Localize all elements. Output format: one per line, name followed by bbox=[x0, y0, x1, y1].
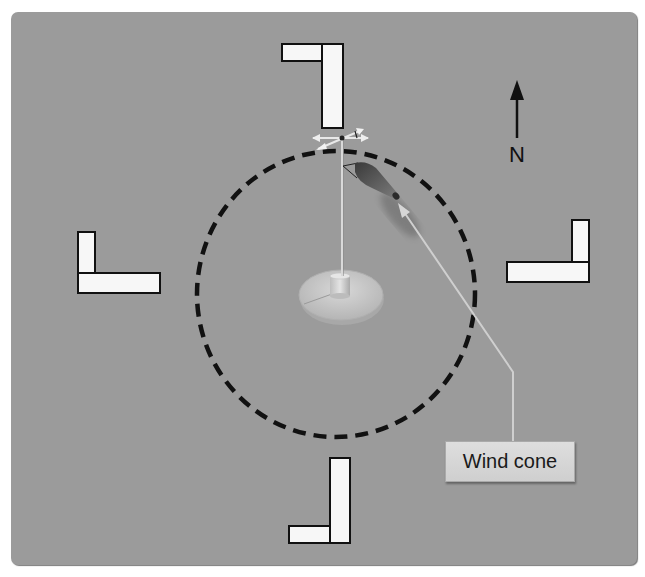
wind-cone-label-text: Wind cone bbox=[463, 450, 558, 473]
wind-cone-callout-label: Wind cone bbox=[445, 441, 575, 482]
north-arrow-icon bbox=[510, 80, 524, 138]
wind-tee-icon bbox=[312, 128, 369, 150]
traffic-indicator-right bbox=[507, 220, 589, 282]
traffic-indicator-top bbox=[282, 44, 343, 128]
windsock-icon bbox=[343, 162, 401, 201]
mast-base-icon bbox=[299, 270, 384, 325]
north-label: N bbox=[505, 142, 529, 168]
airport-wind-indicator-diagram bbox=[0, 0, 645, 577]
traffic-indicator-left bbox=[78, 232, 160, 293]
callout-leader bbox=[398, 203, 513, 441]
traffic-indicator-bottom bbox=[289, 458, 350, 543]
